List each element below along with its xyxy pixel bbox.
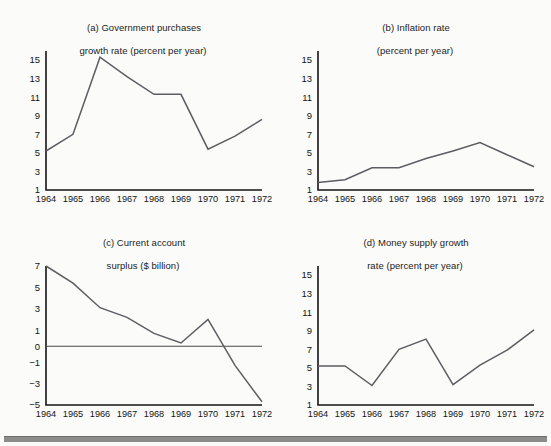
svg-text:7: 7 — [307, 344, 312, 355]
svg-text:13: 13 — [301, 288, 312, 299]
svg-text:1: 1 — [35, 325, 40, 336]
panel-b-plot: 1357911131519641965196619671968196919701… — [272, 4, 544, 217]
svg-text:7: 7 — [307, 129, 312, 140]
svg-text:1964: 1964 — [36, 409, 56, 419]
svg-text:1971: 1971 — [497, 409, 517, 419]
svg-text:1967: 1967 — [389, 409, 409, 419]
svg-text:1968: 1968 — [416, 194, 436, 204]
svg-text:11: 11 — [30, 92, 40, 103]
svg-text:1967: 1967 — [117, 409, 137, 419]
svg-text:1970: 1970 — [198, 194, 218, 204]
svg-text:5: 5 — [307, 362, 312, 373]
svg-text:1965: 1965 — [63, 194, 83, 204]
svg-text:1970: 1970 — [198, 409, 218, 419]
svg-text:9: 9 — [307, 325, 312, 336]
svg-text:1972: 1972 — [252, 409, 272, 419]
svg-text:3: 3 — [307, 166, 312, 177]
svg-text:1968: 1968 — [144, 409, 164, 419]
four-panel-line-chart-figure: (a) Government purchases growth rate (pe… — [0, 0, 551, 446]
svg-text:1968: 1968 — [416, 409, 436, 419]
svg-text:1967: 1967 — [117, 194, 137, 204]
svg-text:11: 11 — [302, 307, 312, 318]
svg-text:1969: 1969 — [443, 409, 463, 419]
panel-b: (b) Inflation rate (percent per year) 13… — [272, 4, 544, 217]
svg-text:9: 9 — [35, 110, 40, 121]
svg-text:1971: 1971 — [497, 194, 517, 204]
panel-c: (c) Current account surplus ($ billion) … — [0, 219, 272, 432]
svg-text:1972: 1972 — [524, 194, 544, 204]
svg-text:3: 3 — [35, 303, 40, 314]
svg-text:1971: 1971 — [225, 409, 245, 419]
svg-text:0: 0 — [35, 341, 40, 352]
svg-text:1964: 1964 — [308, 409, 328, 419]
svg-text:3: 3 — [307, 381, 312, 392]
svg-text:1968: 1968 — [144, 194, 164, 204]
panel-d: (d) Money supply growth rate (percent pe… — [272, 219, 544, 432]
panel-c-plot: −5−3−10135719641965196619671968196919701… — [0, 219, 272, 432]
svg-text:1972: 1972 — [524, 409, 544, 419]
svg-text:1966: 1966 — [90, 194, 110, 204]
svg-text:3: 3 — [35, 166, 40, 177]
svg-text:1966: 1966 — [362, 194, 382, 204]
panel-a: (a) Government purchases growth rate (pe… — [0, 4, 272, 217]
svg-text:1964: 1964 — [308, 194, 328, 204]
svg-text:15: 15 — [29, 54, 40, 65]
svg-text:1965: 1965 — [335, 194, 355, 204]
svg-text:13: 13 — [301, 73, 312, 84]
svg-text:−1: −1 — [29, 357, 40, 368]
svg-text:1967: 1967 — [389, 194, 409, 204]
svg-text:15: 15 — [301, 54, 312, 65]
svg-text:1970: 1970 — [470, 194, 490, 204]
svg-text:−3: −3 — [29, 378, 40, 389]
svg-text:1972: 1972 — [252, 194, 272, 204]
svg-text:1966: 1966 — [90, 409, 110, 419]
svg-text:1966: 1966 — [362, 409, 382, 419]
svg-text:9: 9 — [307, 110, 312, 121]
svg-text:11: 11 — [302, 92, 312, 103]
svg-text:1969: 1969 — [171, 194, 191, 204]
footer-rule — [4, 436, 547, 442]
svg-text:1965: 1965 — [63, 409, 83, 419]
svg-text:7: 7 — [35, 129, 40, 140]
svg-text:5: 5 — [307, 147, 312, 158]
svg-text:1970: 1970 — [470, 409, 490, 419]
svg-text:1969: 1969 — [443, 194, 463, 204]
svg-text:15: 15 — [301, 269, 312, 280]
svg-text:1964: 1964 — [36, 194, 56, 204]
svg-text:1969: 1969 — [171, 409, 191, 419]
svg-text:7: 7 — [35, 260, 40, 271]
svg-text:5: 5 — [35, 147, 40, 158]
svg-text:1965: 1965 — [335, 409, 355, 419]
svg-text:1971: 1971 — [225, 194, 245, 204]
panel-a-plot: 1357911131519641965196619671968196919701… — [0, 4, 272, 217]
svg-text:5: 5 — [35, 282, 40, 293]
svg-text:13: 13 — [29, 73, 40, 84]
panel-d-plot: 1357911131519641965196619671968196919701… — [272, 219, 544, 432]
